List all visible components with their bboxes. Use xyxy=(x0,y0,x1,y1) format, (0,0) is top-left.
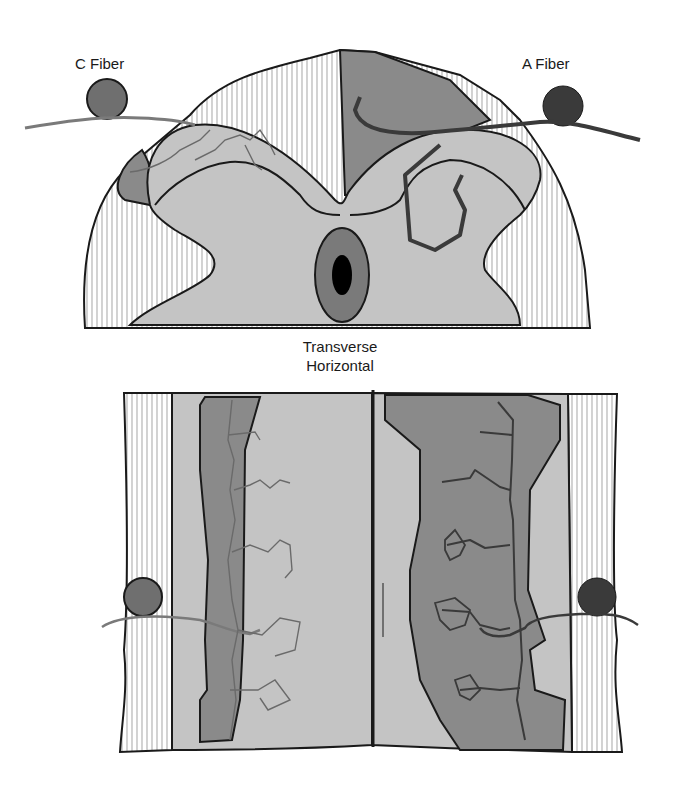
a-fiber-soma-h xyxy=(578,578,616,616)
c-fiber-soma xyxy=(87,79,127,119)
c-fiber-soma-h xyxy=(124,578,162,616)
horizontal-label: Horizontal xyxy=(300,356,380,375)
white-matter-right xyxy=(568,394,622,752)
c-fiber-label: C Fiber xyxy=(75,54,124,73)
transverse-label: Transverse xyxy=(300,337,380,356)
transverse-section xyxy=(25,50,640,328)
a-fiber-label: A Fiber xyxy=(522,54,570,73)
central-canal xyxy=(332,255,352,295)
section-label: Transverse Horizontal xyxy=(300,337,380,375)
c-fiber-axon xyxy=(25,118,195,128)
white-matter-left xyxy=(120,393,172,752)
horizontal-section xyxy=(102,390,638,752)
spinal-cord-diagram xyxy=(0,0,674,787)
